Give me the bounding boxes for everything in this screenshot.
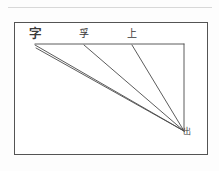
- page-top-rule: [8, 7, 212, 8]
- figure-frame-box: [14, 22, 208, 155]
- vertex-label-left: 字: [29, 28, 42, 40]
- vertex-label-right: 上: [127, 29, 137, 39]
- vertex-label-middle: 孚: [79, 29, 89, 39]
- page-canvas: 字 孚 上 出: [0, 0, 219, 171]
- vertex-label-convergence: 出: [183, 128, 191, 136]
